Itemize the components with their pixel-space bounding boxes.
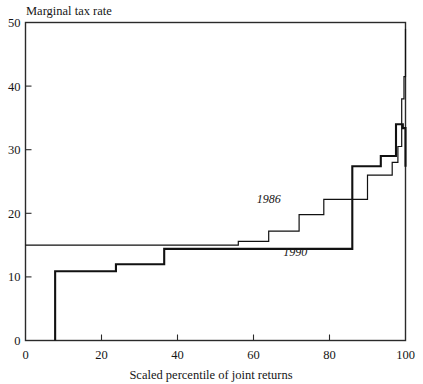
plot-frame: [26, 23, 406, 341]
y-axis-title: Marginal tax rate: [26, 4, 112, 18]
y-axis-tick-labels: 01020304050: [8, 16, 21, 348]
y-tick-label: 40: [8, 80, 21, 94]
x-tick-label: 100: [396, 348, 415, 362]
x-tick-label: 0: [22, 348, 28, 362]
x-tick-label: 80: [323, 348, 336, 362]
x-tick-label: 20: [95, 348, 108, 362]
chart-figure: Marginal tax rate 01020304050 0204060801…: [0, 0, 423, 384]
x-axis-title: Scaled percentile of joint returns: [129, 368, 292, 382]
series-line-1990: [55, 124, 405, 340]
x-axis-tick-labels: 020406080100: [22, 348, 415, 362]
x-axis-ticks: [102, 335, 330, 341]
y-axis-ticks: [26, 86, 32, 277]
y-tick-label: 10: [8, 270, 21, 284]
y-tick-label: 0: [14, 334, 20, 348]
y-tick-label: 20: [8, 207, 21, 221]
x-tick-label: 60: [247, 348, 260, 362]
series-line-1986: [26, 29, 406, 245]
series-lines: [26, 29, 406, 341]
series-label-1986: 1986: [257, 192, 281, 206]
y-tick-label: 30: [8, 143, 21, 157]
series-label-1990: 1990: [283, 245, 307, 259]
y-tick-label: 50: [8, 16, 21, 30]
x-tick-label: 40: [171, 348, 184, 362]
